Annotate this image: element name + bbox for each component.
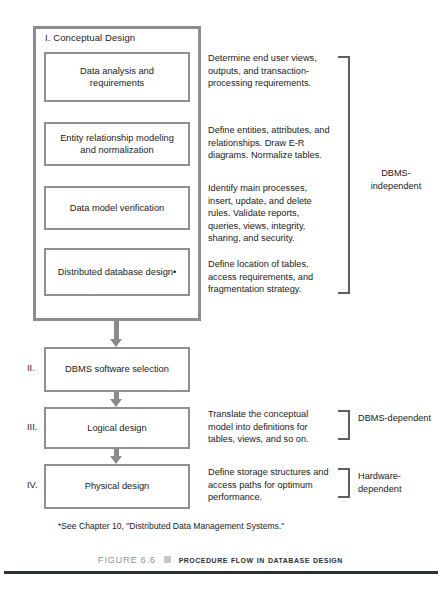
figure-caption: FIGURE 6.6 Procedure Flow in Database De… — [98, 554, 343, 565]
flow-arrow-down-icon — [110, 321, 123, 347]
bracket-dbms-dependent — [338, 410, 350, 440]
step-box-label: Data analysis and requirements — [52, 65, 182, 90]
bracket-label-dbms-dependent: DBMS-dependent — [358, 412, 438, 425]
bracket-hardware-dependent — [338, 468, 350, 498]
flow-arrow-down-icon — [110, 392, 123, 407]
caption-figure-number: FIGURE 6.6 — [98, 555, 156, 565]
caption-divider — [4, 571, 438, 574]
step-box-data-analysis: Data analysis and requirements — [44, 52, 190, 102]
figure-page: I. Conceptual Design Data analysis and r… — [0, 0, 442, 590]
stage-box-logical-design: Logical design — [44, 407, 190, 449]
arrow-head — [110, 339, 122, 347]
description-logical-design: Translate the conceptual model into defi… — [208, 408, 333, 446]
description-distributed-database-design: Define location of tables, access requir… — [208, 258, 333, 296]
caption-square-bullet-icon — [164, 556, 171, 563]
stage-box-label: Logical design — [87, 422, 146, 435]
stage-box-physical-design: Physical design — [44, 464, 190, 509]
bracket-dbms-independent — [338, 56, 350, 294]
description-entity-relationship: Define entities, attributes, and relatio… — [208, 124, 333, 162]
step-box-label: Distributed database design• — [58, 266, 177, 279]
step-box-label: Entity relationship modeling and normali… — [52, 132, 182, 157]
stage-box-dbms-software-selection: DBMS software selection — [44, 347, 190, 392]
arrow-shaft — [114, 392, 119, 399]
step-box-entity-relationship-modeling: Entity relationship modeling and normali… — [44, 122, 190, 166]
flow-arrow-down-icon — [110, 449, 123, 464]
stage-numeral-3: III. — [27, 422, 37, 432]
description-physical-design: Define storage structures and access pat… — [208, 466, 333, 504]
step-box-label: Data model verification — [70, 202, 165, 215]
bracket-label-hardware-dependent: Hardware-dependent — [358, 470, 438, 495]
description-data-model-verification: Identify main processes, insert, update,… — [208, 182, 333, 245]
arrow-shaft — [114, 449, 119, 456]
description-data-analysis: Determine end user views, outputs, and t… — [208, 52, 333, 90]
step-box-data-model-verification: Data model verification — [44, 186, 190, 230]
step-box-distributed-database-design: Distributed database design• — [44, 248, 190, 296]
stage-numeral-2: II. — [27, 363, 35, 373]
arrow-shaft — [114, 321, 119, 339]
bracket-label-dbms-independent: DBMS-independent — [356, 167, 436, 192]
caption-title: Procedure Flow in Database Design — [179, 554, 343, 565]
footnote: *See Chapter 10, "Distributed Data Manag… — [58, 521, 284, 531]
arrow-head — [110, 399, 122, 407]
arrow-head — [110, 456, 122, 464]
conceptual-design-title: I. Conceptual Design — [45, 32, 135, 43]
stage-numeral-4: IV. — [27, 480, 38, 490]
stage-box-label: DBMS software selection — [65, 363, 169, 376]
stage-box-label: Physical design — [85, 480, 150, 493]
